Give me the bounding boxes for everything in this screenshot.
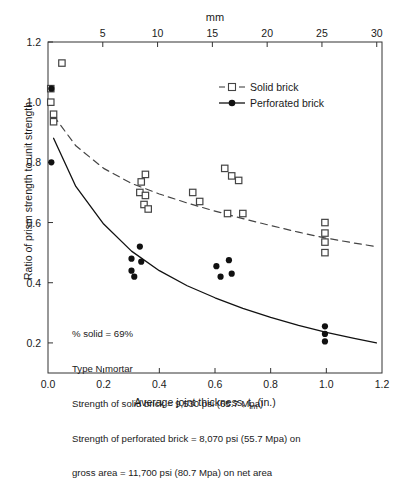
chart-legend: Solid brick Perforated brick [219,79,324,111]
legend-key-open-square-icon [219,81,245,93]
data-point-perforated-brick [128,256,134,262]
data-point-solid-brick [190,189,196,195]
data-point-perforated-brick [229,271,235,277]
data-point-perforated-brick [322,338,328,344]
data-point-solid-brick [48,99,54,105]
legend-item-perforated-brick: Perforated brick [219,95,324,111]
legend-label-perforated-brick: Perforated brick [250,95,324,111]
chart-annotation-block: % solid = 69% Type N mortar Strength of … [72,305,301,482]
annotation-line-1: % solid = 69% [72,328,301,340]
data-point-solid-brick [142,192,148,198]
x-tick-label-1.0: 1.0 [319,378,334,390]
data-point-solid-brick [322,219,328,225]
data-point-solid-brick [229,173,235,179]
top-tick-label-20: 20 [261,27,273,39]
data-point-perforated-brick [48,86,54,92]
data-point-perforated-brick [226,257,232,263]
y-axis-label: Ratio of prism strength to unit strength [22,91,34,291]
data-point-perforated-brick [322,323,328,329]
data-point-solid-brick [59,60,65,66]
data-point-solid-brick [224,210,230,216]
data-point-solid-brick [50,119,56,125]
top-tick-label-5: 5 [100,27,106,39]
data-point-solid-brick [138,179,144,185]
fit-curve-solid-brick [54,116,377,247]
x-tick-label-1.2: 1.2 [375,378,390,390]
annotation-line-2: Type N mortar [72,363,301,375]
data-point-perforated-brick [131,274,137,280]
data-point-solid-brick [142,171,148,177]
data-point-perforated-brick [138,259,144,265]
legend-key-filled-circle-icon [219,97,245,109]
data-point-solid-brick [50,111,56,117]
data-point-solid-brick [235,177,241,183]
x-tick-label-0.0: 0.0 [41,378,56,390]
data-point-solid-brick [222,165,228,171]
annotation-line-3: Strength of solid brick = 9,530 psi (65.… [72,398,301,410]
annotation-line-5: gross area = 11,700 psi (80.7 Mpa) on ne… [72,467,301,479]
data-point-solid-brick [322,239,328,245]
data-point-solid-brick [240,210,246,216]
legend-label-solid-brick: Solid brick [250,79,298,95]
y-tick-label-0.2: 0.2 [26,337,41,349]
y-tick-label-1.2: 1.2 [26,36,41,48]
data-point-perforated-brick [217,274,223,280]
data-point-perforated-brick [128,268,134,274]
data-point-solid-brick [322,249,328,255]
top-tick-label-25: 25 [316,27,328,39]
top-tick-label-15: 15 [207,27,219,39]
annotation-line-4: Strength of perforated brick = 8,070 psi… [72,433,301,445]
top-axis-label: mm [206,11,224,23]
data-point-solid-brick [196,198,202,204]
data-point-perforated-brick [213,263,219,269]
data-point-perforated-brick [137,244,143,250]
legend-item-solid-brick: Solid brick [219,79,324,95]
top-tick-label-30: 30 [371,27,383,39]
data-point-perforated-brick [48,159,54,165]
data-point-perforated-brick [322,331,328,337]
top-tick-label-10: 10 [152,27,164,39]
data-point-solid-brick [145,206,151,212]
data-point-solid-brick [322,230,328,236]
